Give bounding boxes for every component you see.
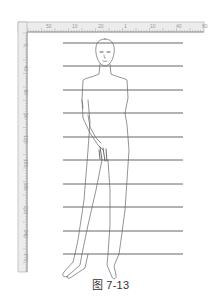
- ruler-label: 240: [23, 230, 29, 239]
- ruler-label: 60: [23, 89, 29, 95]
- figure-container: %5010201104080 0406090120150180210240270: [0, 0, 221, 305]
- horizontal-ruler: %5010201104080: [18, 22, 208, 32]
- figure-leg-left: [67, 160, 102, 278]
- ruler-label: 50: [46, 23, 52, 29]
- figure-caption: 图 7-13: [0, 276, 221, 292]
- figure-hand: [99, 147, 107, 161]
- ruler-label: 40: [176, 23, 182, 29]
- fashion-figure: [63, 39, 129, 279]
- figure-leg-right: [107, 160, 119, 279]
- vertical-ruler: 0406090120150180210240270: [18, 22, 204, 272]
- ruler-label: 10: [150, 23, 156, 29]
- ruler-label: 40: [23, 66, 29, 72]
- ruler-label: 90: [23, 113, 29, 119]
- ruler-label: 270: [23, 253, 29, 262]
- ruler-label: 80: [202, 23, 208, 29]
- ruler-label: 10: [72, 23, 78, 29]
- ruler-label: 0: [23, 44, 29, 47]
- ruler-label: 150: [23, 159, 29, 168]
- ruler-label: 1: [124, 23, 127, 29]
- fashion-figure-diagram: %5010201104080 0406090120150180210240270: [0, 0, 221, 305]
- ruler-label: 120: [23, 135, 29, 144]
- figure-neck-shoulders: [82, 64, 100, 108]
- ruler-label: 210: [23, 206, 29, 215]
- figure-arm: [82, 100, 103, 150]
- ruler-label: 180: [23, 182, 29, 191]
- ruler-label: 20: [98, 23, 104, 29]
